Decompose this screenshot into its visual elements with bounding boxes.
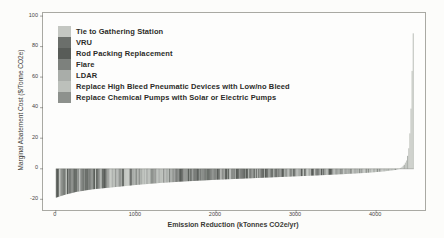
bar <box>106 169 107 188</box>
legend-item: Rod Packing Replacement <box>58 48 290 59</box>
bar <box>365 169 366 173</box>
bar <box>267 169 268 178</box>
bar <box>123 169 124 186</box>
bar <box>140 169 141 185</box>
bar <box>300 169 301 176</box>
bar <box>283 169 284 177</box>
bar <box>306 169 307 176</box>
bar <box>259 169 260 178</box>
bar <box>87 169 88 190</box>
bar <box>191 169 192 181</box>
bar <box>405 163 406 169</box>
bar <box>239 169 240 179</box>
bar <box>376 169 377 172</box>
bar <box>71 169 72 193</box>
bar <box>223 169 224 180</box>
bar <box>167 169 168 183</box>
bar <box>75 169 76 192</box>
bar <box>254 169 255 178</box>
bar <box>85 169 86 191</box>
bar <box>377 169 378 172</box>
bar <box>291 169 292 177</box>
bar <box>331 169 332 175</box>
bar <box>169 169 170 183</box>
bar <box>286 169 287 177</box>
bar <box>65 169 66 195</box>
bar <box>275 169 276 177</box>
bar <box>130 169 131 186</box>
bar <box>250 169 251 178</box>
bar <box>313 169 314 176</box>
legend-swatch-icon <box>58 37 71 48</box>
bar <box>322 169 323 175</box>
bar <box>299 169 300 176</box>
bar <box>187 169 188 182</box>
bar <box>341 169 342 174</box>
bar <box>89 169 90 190</box>
bar <box>108 169 109 188</box>
bar <box>277 169 278 177</box>
y-tick-label: 80 <box>0 42 38 49</box>
bar <box>115 169 116 187</box>
bar <box>303 169 304 176</box>
bar <box>206 169 207 181</box>
bar <box>188 169 189 181</box>
bar <box>295 169 296 177</box>
bar <box>410 109 411 169</box>
bar <box>357 169 358 174</box>
bar <box>379 169 380 172</box>
bar <box>230 169 231 179</box>
bar <box>243 169 244 179</box>
bar <box>217 169 218 180</box>
bar <box>162 169 163 183</box>
legend-swatch-icon <box>58 70 71 81</box>
bar <box>102 169 103 189</box>
bar <box>293 169 294 177</box>
bar <box>234 169 235 179</box>
bar <box>356 169 357 174</box>
bar <box>284 169 285 177</box>
bar <box>362 169 363 173</box>
bar <box>151 169 152 184</box>
bar <box>319 169 320 176</box>
bar <box>339 169 340 175</box>
bar <box>369 169 370 173</box>
bar <box>99 169 100 189</box>
bar <box>116 169 117 187</box>
bar <box>406 160 407 168</box>
bar <box>114 169 115 187</box>
bar <box>176 169 177 182</box>
bar <box>226 169 227 180</box>
bar <box>269 169 270 178</box>
bar <box>214 169 215 180</box>
bar <box>228 169 229 179</box>
bar <box>124 169 125 186</box>
bar <box>193 169 194 181</box>
bar <box>403 166 404 169</box>
bar <box>146 169 147 184</box>
bar <box>182 169 183 182</box>
bar <box>363 169 364 173</box>
bar <box>95 169 96 189</box>
bar <box>77 169 78 192</box>
bar <box>154 169 155 184</box>
bar <box>199 169 200 181</box>
bar <box>242 169 243 179</box>
legend-item: LDAR <box>58 70 290 81</box>
bar <box>104 169 105 188</box>
bar <box>280 169 281 177</box>
bar <box>404 165 405 169</box>
bar <box>73 169 74 193</box>
bar <box>68 169 69 194</box>
legend-swatch-icon <box>58 92 71 103</box>
bar <box>145 169 146 184</box>
bar <box>164 169 165 183</box>
bar <box>252 169 253 178</box>
bar <box>262 169 263 178</box>
bar <box>372 169 373 173</box>
bar <box>268 169 269 178</box>
bar <box>76 169 77 192</box>
bar <box>412 71 413 169</box>
bar <box>323 169 324 175</box>
bar <box>294 169 295 177</box>
